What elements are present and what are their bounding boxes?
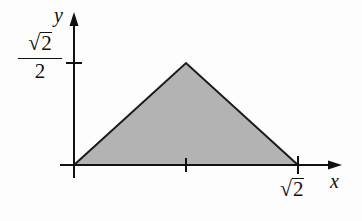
radical-sign-icon: √ (28, 30, 40, 55)
radicand: 2 (40, 32, 52, 53)
y-axis-arrow-icon (70, 12, 79, 26)
y-tick-label-sqrt2-over-2: √2 2 (18, 30, 62, 83)
fraction-denominator: 2 (18, 59, 62, 83)
fraction-numerator: √2 (18, 30, 62, 56)
radical: √2 (280, 176, 304, 202)
x-axis-label: x (330, 170, 339, 193)
radical: √2 (28, 30, 52, 56)
x-axis-arrow-icon (328, 161, 342, 170)
x-tick-label-sqrt2: √2 (280, 176, 304, 202)
shaded-triangle (74, 63, 298, 165)
radical-sign-icon: √ (280, 176, 292, 201)
diagram-canvas: y x √2 2 √2 (0, 0, 362, 221)
radicand: 2 (292, 178, 304, 199)
y-axis-label: y (54, 4, 63, 27)
